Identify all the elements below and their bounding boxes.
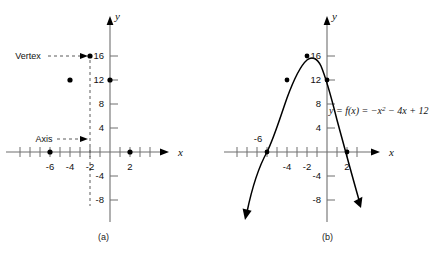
equation-rest: − 4x + 12 [386,105,429,116]
curve-point-minus4-12 [285,78,290,83]
y-tick-label-minus8-a: -8 [96,194,104,205]
point-2-0 [127,149,132,154]
x-axis-label-b: x [388,146,394,158]
y-tick-label-16-b: 16 [310,50,321,61]
point-minus4-12 [67,77,72,82]
equation-lhs: y = f(x) = [328,105,371,117]
y-axis-label-a: y [114,10,120,22]
panel-a: Vertex Axis -6 -4 -2 2 16 12 8 4 -4 -8 x… [0,0,223,254]
x-axis-label-a: x [177,146,183,158]
y-tick-label-minus4-a: -4 [96,170,104,181]
equation-label: y = f(x) = −x2 − 4x + 12 [328,105,428,118]
y-tick-label-minus8-b: -8 [313,194,321,205]
point-0-12 [107,77,112,82]
axis-arrow-head [80,136,88,142]
equation-term1: −x [371,105,383,116]
caption-panel-b: (b) [322,232,333,242]
point-minus6-0 [47,149,52,154]
y-tick-label-8-b: 8 [316,98,321,109]
vertex-arrow-head [80,53,88,59]
panel-b: -6 -4 -2 2 16 12 8 4 -4 -8 x y y = f(x) … [224,0,447,254]
y-tick-label-12-b: 12 [310,74,321,85]
axis-annotation: Axis [35,134,88,144]
point-vertex [87,53,92,58]
y-axis-a [107,16,114,222]
y-ticks-b [327,56,335,200]
vertex-annotation-label: Vertex [15,51,41,61]
parabola-curve [247,58,359,212]
y-axis-b [324,16,331,222]
y-tick-label-minus4-b: -4 [313,170,321,181]
caption-panel-a: (a) [98,232,109,242]
panel-a-plot: Vertex Axis -6 -4 -2 2 16 12 8 4 -4 -8 x… [0,0,223,254]
y-tick-label-16-a: 16 [93,50,104,61]
x-tick-label-minus2-a: -2 [86,161,94,172]
y-tick-label-12-a: 12 [93,74,104,85]
axis-annotation-label: Axis [35,134,53,144]
vertex-annotation: Vertex [15,51,88,61]
curve-point-2-0 [345,150,350,155]
y-tick-label-8-a: 8 [99,98,104,109]
panel-b-plot: -6 -4 -2 2 16 12 8 4 -4 -8 x y y = f(x) … [224,0,447,254]
x-tick-label-2-a: 2 [127,161,132,172]
x-tick-label-minus6-a: -6 [46,161,54,172]
x-tick-label-2-b: 2 [344,161,349,172]
curve-point-0-12 [325,78,330,83]
curve-arrow-head-left [243,208,252,220]
x-tick-label-minus2-b: -2 [303,161,311,172]
curve-point-vertex [305,54,310,59]
x-tick-label-minus6-b: -6 [254,133,262,144]
x-tick-label-minus4-b: -4 [283,161,291,172]
y-tick-label-4-b: 4 [316,122,321,133]
curve-point-minus6-0 [265,150,270,155]
y-tick-label-4-a: 4 [99,122,104,133]
y-ticks-a [110,56,118,200]
y-axis-label-b: y [331,10,337,22]
x-tick-label-minus4-a: -4 [66,161,74,172]
